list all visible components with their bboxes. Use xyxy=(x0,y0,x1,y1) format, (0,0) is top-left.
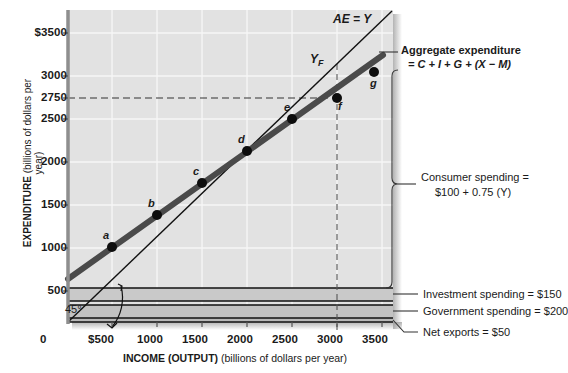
plot-shadow-bottom xyxy=(72,322,402,330)
x-tick-3500: 3500 xyxy=(362,333,388,345)
x-tick-1000: 1000 xyxy=(137,333,163,345)
aggregate-expenditure-label-line2: = C + I + G + (X − M) xyxy=(408,58,511,70)
point-label-e: e xyxy=(284,101,290,113)
net-exports-label: Net exports = $50 xyxy=(423,326,510,338)
yf-main: Y xyxy=(310,52,318,66)
x-tick-2500: 2500 xyxy=(272,333,298,345)
x-axis-title-sub: (billions of dollars per year) xyxy=(221,352,347,364)
x-tick-500: $500 xyxy=(88,333,114,345)
y-tick-1500: 1500 xyxy=(41,198,67,210)
y-tick-500: 500 xyxy=(48,284,68,296)
x-tick-0: 0 xyxy=(40,333,47,345)
y-axis-title-main: EXPENDITURE xyxy=(22,176,33,247)
consumer-spending-label-line1: Consumer spending = xyxy=(421,171,529,183)
plot-shadow-right xyxy=(393,14,402,329)
government-spending-label: Government spending = $200 xyxy=(423,305,568,317)
data-point-c xyxy=(197,178,207,188)
x-tick-2000: 2000 xyxy=(227,333,253,345)
data-point-g xyxy=(369,67,379,77)
component-bands xyxy=(68,288,393,322)
y-tick-2500: 2500 xyxy=(41,112,67,124)
band-investment-spending xyxy=(68,288,393,301)
angle-45-label: 45° xyxy=(65,303,82,315)
band-government-spending xyxy=(68,305,393,318)
x-axis-title-main: INCOME (OUTPUT) xyxy=(123,352,218,364)
aggregate-expenditure-label-line1: Aggregate expenditure xyxy=(401,44,521,56)
x-tick-1500: 1500 xyxy=(182,333,208,345)
data-point-a xyxy=(107,242,117,252)
y-tick-3500: $3500 xyxy=(35,26,67,38)
y-tick-2000: 2000 xyxy=(41,155,67,167)
point-label-d: d xyxy=(238,133,245,145)
investment-spending-label: Investment spending = $150 xyxy=(423,288,562,300)
y-axis-title: EXPENDITURE (billions of dollars per yea… xyxy=(22,68,44,258)
yf-subscript: F xyxy=(318,58,324,68)
x-axis-title: INCOME (OUTPUT) (billions of dollars per… xyxy=(123,352,347,364)
point-label-c: c xyxy=(193,165,199,177)
consumer-spending-label-line2: $100 + 0.75 (Y) xyxy=(435,186,511,198)
y-tick-1000: 1000 xyxy=(41,241,67,253)
point-label-g: g xyxy=(370,77,377,89)
point-label-f: f xyxy=(338,100,342,112)
y-tick-2750: 2750 xyxy=(41,91,67,103)
y-axis-title-sub: (billions of dollars per year) xyxy=(22,79,44,175)
ae-equals-y-label: AE = Y xyxy=(333,12,371,26)
y-tick-3000: 3000 xyxy=(41,69,67,81)
data-point-b xyxy=(152,210,162,220)
full-employment-label: YF xyxy=(310,52,324,68)
x-tick-3000: 3000 xyxy=(317,333,343,345)
data-point-d xyxy=(242,146,252,156)
point-label-a: a xyxy=(103,229,109,241)
point-label-b: b xyxy=(148,197,155,209)
data-point-e xyxy=(287,114,297,124)
